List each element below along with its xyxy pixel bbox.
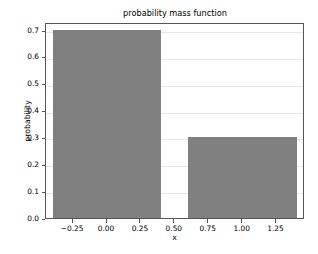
figure: probability mass function 0.00.10.20.30.… — [0, 0, 318, 254]
x-axis-label: x — [45, 233, 304, 242]
chart-title: probability mass function — [45, 8, 305, 18]
bar — [53, 30, 161, 218]
y-tick-mark — [42, 111, 46, 112]
plot-axes — [45, 23, 304, 219]
x-tick-mark — [275, 219, 276, 223]
y-axis-label: probability — [21, 23, 35, 219]
y-tick-mark — [42, 84, 46, 85]
x-tick-mark — [139, 219, 140, 223]
plot-area — [46, 24, 303, 218]
y-tick-mark — [42, 57, 46, 58]
x-tick-mark — [207, 219, 208, 223]
x-tick-mark — [72, 219, 73, 223]
x-tick-label: 1.25 — [256, 224, 296, 233]
bar — [188, 137, 296, 218]
y-tick-mark — [42, 165, 46, 166]
y-tick-mark — [42, 192, 46, 193]
x-tick-mark — [241, 219, 242, 223]
y-tick-mark — [42, 138, 46, 139]
x-tick-mark — [106, 219, 107, 223]
x-tick-mark — [173, 219, 174, 223]
y-tick-mark — [42, 31, 46, 32]
